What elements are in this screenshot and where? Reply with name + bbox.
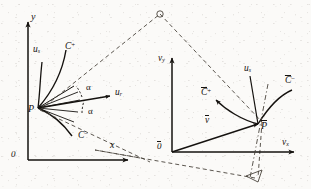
- left-streamline-curve: [38, 62, 42, 108]
- left-y-axis-label: y: [31, 12, 35, 22]
- right-vx-axis-label: vx: [282, 138, 289, 148]
- right-curve-c-plus: [216, 100, 258, 124]
- right-velocity-vector: [172, 124, 258, 152]
- diagram-vector-layer: [0, 0, 311, 189]
- left-ur-subscript: r: [120, 91, 122, 97]
- left-origin-label: 0: [11, 150, 16, 159]
- left-ray-fan: [38, 86, 110, 122]
- left-x-axis-label: x: [110, 140, 114, 150]
- connector-dashed-triangle: [40, 14, 262, 178]
- right-streamline-subscript: s: [249, 67, 251, 73]
- right-origin-bar-glyph: 0: [157, 142, 162, 151]
- left-curve-c-minus-label: C−: [78, 131, 88, 141]
- right-c-plus-letter: C: [201, 88, 207, 98]
- left-ray-ur-label: ur: [115, 88, 122, 98]
- left-ray-ur-arrow: [38, 96, 110, 108]
- left-point-p-label: P: [28, 104, 34, 114]
- left-curve-c-minus: [38, 108, 72, 136]
- figure-canvas: y x 0 P us C+ C− ur α α vy vx 0 P v C+ C…: [0, 0, 311, 189]
- right-curve-c-plus-label: C+: [201, 88, 211, 98]
- left-angle-alpha-lower: α: [88, 107, 93, 116]
- left-angle-alpha-upper: α: [86, 83, 91, 92]
- right-streamline-line: [250, 76, 258, 124]
- right-c-plus-sign: +: [207, 87, 211, 94]
- right-point-p-label: P: [261, 121, 267, 131]
- right-streamline-label: us: [244, 64, 251, 74]
- left-streamline-subscript: s: [38, 48, 40, 54]
- left-streamline-label: us: [33, 45, 40, 55]
- right-axes: [172, 58, 294, 152]
- right-c-minus-letter: C: [285, 76, 291, 86]
- connector-left-up: [40, 14, 160, 110]
- right-curve-c-minus-label: C−: [285, 76, 295, 86]
- left-angle-arc-lower: [82, 101, 84, 113]
- right-vy-subscript: y: [162, 57, 165, 63]
- connector-corner-triangle-marker: [246, 170, 262, 182]
- left-angle-arc-upper: [76, 86, 82, 97]
- right-vy-axis-label: vy: [158, 54, 165, 64]
- right-point-p-bar-glyph: P: [261, 121, 267, 131]
- left-c-plus-sign: +: [71, 41, 75, 48]
- right-vx-subscript: x: [286, 141, 289, 147]
- right-curve-c-minus: [258, 90, 292, 124]
- left-curve-c-plus-label: C+: [65, 42, 75, 52]
- right-velocity-bar-glyph: v: [205, 116, 209, 126]
- connector-left-lower: [40, 110, 150, 162]
- right-origin-label: 0: [157, 142, 162, 151]
- left-c-minus-sign: −: [84, 130, 88, 137]
- right-velocity-vector-label: v: [205, 116, 209, 126]
- right-c-minus-sign: −: [291, 75, 295, 82]
